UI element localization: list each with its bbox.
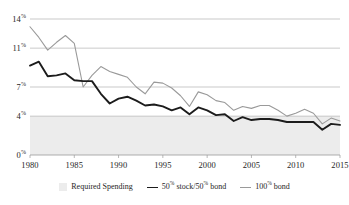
x-tick-label-2010: 2010 <box>287 161 304 170</box>
data-series <box>30 27 340 130</box>
band-swatch-icon <box>59 183 67 191</box>
y-tick-label-4: 4% <box>2 112 26 121</box>
legend-label-50-stock-50-bond: 50% stock/50% bond <box>162 183 226 191</box>
axis-lines <box>30 155 340 158</box>
x-tick-label-1990: 1990 <box>110 161 127 170</box>
legend-label-100-bond: 100% bond <box>255 183 290 191</box>
x-tick-label-2005: 2005 <box>243 161 260 170</box>
gray-line-swatch-icon <box>240 187 251 188</box>
series-line-100-bond <box>30 27 340 124</box>
y-tick-label-0: 0% <box>2 151 26 160</box>
chart-legend: Required Spending 50% stock/50% bond 100… <box>0 183 349 191</box>
y-tick-label-14: 14% <box>2 15 26 24</box>
x-tick-label-1980: 1980 <box>21 161 38 170</box>
line-chart-plot <box>0 0 349 205</box>
dark-line-swatch-icon <box>147 187 158 188</box>
legend-item-50-stock-50-bond: 50% stock/50% bond <box>147 183 226 191</box>
y-tick-label-7: 7% <box>2 83 26 92</box>
x-tick-label-2000: 2000 <box>198 161 215 170</box>
x-tick-label-2015: 2015 <box>331 161 348 170</box>
legend-item-100-bond: 100% bond <box>240 183 290 191</box>
chart-container: 14%11%7%4%0% 198019851990199520002005201… <box>0 0 349 205</box>
y-tick-label-11: 11% <box>2 44 26 53</box>
x-tick-label-1995: 1995 <box>154 161 171 170</box>
x-tick-label-1985: 1985 <box>66 161 83 170</box>
legend-label-required-spending: Required Spending <box>71 183 133 191</box>
legend-item-required-spending: Required Spending <box>59 183 133 191</box>
